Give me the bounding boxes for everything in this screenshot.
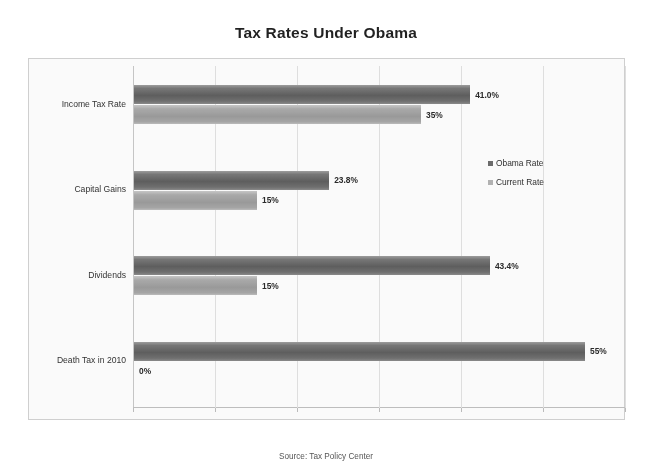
bar-obama-rate[interactable] — [134, 85, 470, 104]
bar-obama-rate[interactable] — [134, 256, 490, 275]
axis-tick — [461, 408, 462, 412]
bar-current-rate[interactable] — [134, 191, 257, 210]
bar-value-label: 15% — [262, 195, 279, 205]
axis-tick — [133, 408, 134, 412]
legend-swatch-icon — [488, 180, 493, 185]
axis-tick — [297, 408, 298, 412]
chart-canvas: Tax Rates Under Obama Income Tax RateCap… — [0, 0, 652, 474]
bar-current-rate[interactable] — [134, 105, 421, 124]
legend-item-obama-rate: Obama Rate — [488, 158, 544, 168]
bar-value-label: 41.0% — [475, 90, 499, 100]
gridline — [625, 66, 626, 408]
chart-title: Tax Rates Under Obama — [0, 24, 652, 42]
category-label: Death Tax in 2010 — [0, 355, 138, 365]
bar-obama-rate[interactable] — [134, 171, 329, 190]
category-axis-labels: Income Tax RateCapital GainsDividendsDea… — [0, 58, 126, 420]
axis-tick — [625, 408, 626, 412]
bar-value-label: 43.4% — [495, 261, 519, 271]
legend-label: Obama Rate — [496, 158, 543, 168]
axis-tick — [543, 408, 544, 412]
bar-value-label: 55% — [590, 346, 607, 356]
bar-current-rate[interactable] — [134, 276, 257, 295]
category-label: Income Tax Rate — [0, 99, 138, 109]
category-label: Capital Gains — [0, 184, 138, 194]
axis-tick — [379, 408, 380, 412]
bar-value-label: 35% — [426, 110, 443, 120]
plot-area: 41.0%35%23.8%15%43.4%15%55%0% — [133, 66, 625, 408]
bar-value-label: 23.8% — [334, 175, 358, 185]
bar-value-label: 0% — [139, 366, 151, 376]
source-note: Source: Tax Policy Center — [0, 452, 652, 461]
bar-obama-rate[interactable] — [134, 342, 585, 361]
legend-swatch-icon — [488, 161, 493, 166]
category-label: Dividends — [0, 270, 138, 280]
bar-value-label: 15% — [262, 281, 279, 291]
legend-label: Current Rate — [496, 177, 544, 187]
legend-item-current-rate: Current Rate — [488, 177, 544, 187]
axis-tick — [215, 408, 216, 412]
chart-legend: Obama Rate Current Rate — [488, 158, 544, 196]
